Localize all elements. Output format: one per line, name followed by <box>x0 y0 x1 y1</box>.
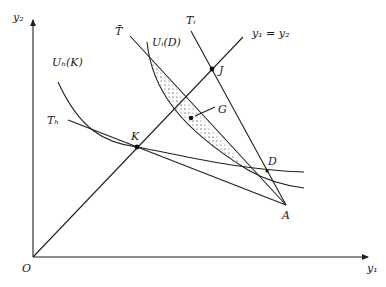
point-k-label: K <box>130 130 140 143</box>
t-i-label: Tᵢ <box>186 14 196 27</box>
y1-axis-label: y₁ <box>366 262 378 275</box>
point-a-label: A <box>281 209 290 222</box>
point-j-label: J <box>217 64 224 77</box>
diagram-canvas: y₂ y₁ O y₁ = y₂ T̄ Tᵢ Tₕ Uₕ(K) Uᵢ(D) J K… <box>0 0 386 287</box>
point-k <box>135 145 140 150</box>
point-d <box>265 169 268 172</box>
point-g-label: G <box>218 103 227 116</box>
t-bar-label: T̄ <box>115 25 124 38</box>
diagonal-label: y₁ = y₂ <box>251 27 289 40</box>
point-j <box>210 67 215 72</box>
u-h-label: Uₕ(K) <box>52 56 83 69</box>
t-h-line <box>68 120 286 205</box>
u-i-label: Uᵢ(D) <box>152 36 181 49</box>
point-g <box>189 116 193 120</box>
g-leader-line <box>195 107 215 116</box>
origin-label: O <box>22 262 31 275</box>
point-d-label: D <box>267 155 277 168</box>
t-h-label: Tₕ <box>47 114 59 127</box>
y2-axis-label: y₂ <box>12 11 24 24</box>
